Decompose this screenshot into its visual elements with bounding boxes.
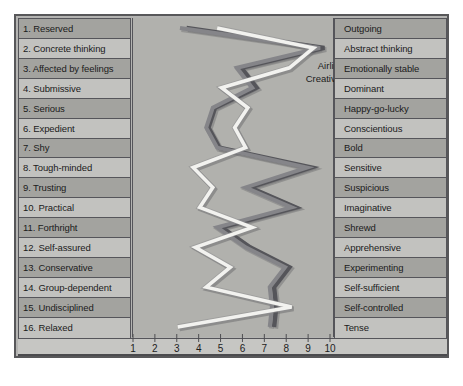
right-label-row: Happy-go-lucky [335,99,446,119]
left-label-row: 6. Expedient [19,119,130,139]
left-label-row: 1. Reserved [19,19,130,39]
right-label-text: Outgoing [344,23,382,34]
left-label-row: 14. Group-dependent [19,278,130,298]
axis-tick-label: 8 [276,343,296,354]
right-label-text: Dominant [344,83,384,94]
left-label-text: 7. Shy [23,142,49,153]
right-label-row: Self-sufficient [335,278,446,298]
left-label-text: 10. Practical [23,202,74,213]
axis-ticks [18,332,447,342]
axis-tick-label: 4 [189,343,209,354]
axis-tick-label: 3 [167,343,187,354]
left-label-row: 10. Practical [19,198,130,218]
left-label-text: 12. Self-assured [23,242,91,253]
left-label-row: 11. Forthright [19,218,130,238]
axis-tick-label: 6 [232,343,252,354]
left-label-text: 6. Expedient [23,123,75,134]
axis-tick-label: 2 [145,343,165,354]
right-label-text: Abstract thinking [344,43,413,54]
right-label-text: Apprehensive [344,242,401,253]
axis-tick-label: 1 [123,343,143,354]
left-label-row: 5. Serious [19,99,130,119]
left-label-text: 15. Undisciplined [23,302,94,313]
left-label-text: 5. Serious [23,103,65,114]
left-label-text: 2. Concrete thinking [23,43,106,54]
x-axis: 12345678910 [18,338,447,356]
right-label-text: Self-sufficient [344,282,399,293]
left-label-text: 14. Group-dependent [23,282,111,293]
right-label-row: Dominant [335,79,446,99]
right-label-text: Shrewd [344,222,376,233]
axis-tick-label: 10 [320,343,340,354]
right-label-column: OutgoingAbstract thinkingEmotionally sta… [334,18,447,339]
left-label-row: 13. Conservative [19,258,130,278]
left-label-text: 1. Reserved [23,23,73,34]
left-label-text: 11. Forthright [23,222,77,233]
chart-screenshot: 1. Reserved2. Concrete thinking3. Affect… [0,0,463,386]
right-label-row: Imaginative [335,198,446,218]
right-label-row: Abstract thinking [335,39,446,59]
right-label-row: Apprehensive [335,238,446,258]
plot-area: Airline pilots Creative artists Writers [132,18,334,337]
axis-tick-label: 7 [254,343,274,354]
right-label-row: Bold [335,139,446,159]
left-label-row: 7. Shy [19,139,130,159]
right-label-text: Conscientious [344,123,402,134]
right-label-text: Imaginative [344,202,391,213]
right-label-row: Suspicious [335,178,446,198]
right-label-row: Self-controlled [335,298,446,318]
right-label-row: Shrewd [335,218,446,238]
right-label-text: Emotionally stable [344,63,419,74]
left-label-text: 9. Trusting [23,182,66,193]
left-label-row: 15. Undisciplined [19,298,130,318]
right-label-text: Experimenting [344,262,403,273]
right-label-row: Experimenting [335,258,446,278]
right-label-text: Sensitive [344,162,382,173]
right-label-text: Bold [344,142,363,153]
left-label-column: 1. Reserved2. Concrete thinking3. Affect… [18,18,131,339]
right-label-text: Self-controlled [344,302,403,313]
left-label-text: 3. Affected by feelings [23,63,113,74]
right-label-row: Outgoing [335,19,446,39]
right-label-row: Sensitive [335,158,446,178]
right-label-text: Suspicious [344,182,389,193]
left-label-text: 4. Submissive [23,83,81,94]
right-label-row: Emotionally stable [335,59,446,79]
left-label-text: 13. Conservative [23,262,93,273]
left-label-row: 4. Submissive [19,79,130,99]
left-label-text: 8. Tough-minded [23,162,92,173]
right-label-text: Happy-go-lucky [344,103,409,114]
left-label-row: 3. Affected by feelings [19,59,130,79]
axis-tick-label: 9 [298,343,318,354]
axis-tick-label: 5 [211,343,231,354]
right-label-row: Conscientious [335,119,446,139]
left-label-row: 9. Trusting [19,178,130,198]
left-label-row: 12. Self-assured [19,238,130,258]
left-label-row: 8. Tough-minded [19,158,130,178]
chart-plate: 1. Reserved2. Concrete thinking3. Affect… [14,14,449,358]
left-label-row: 2. Concrete thinking [19,39,130,59]
